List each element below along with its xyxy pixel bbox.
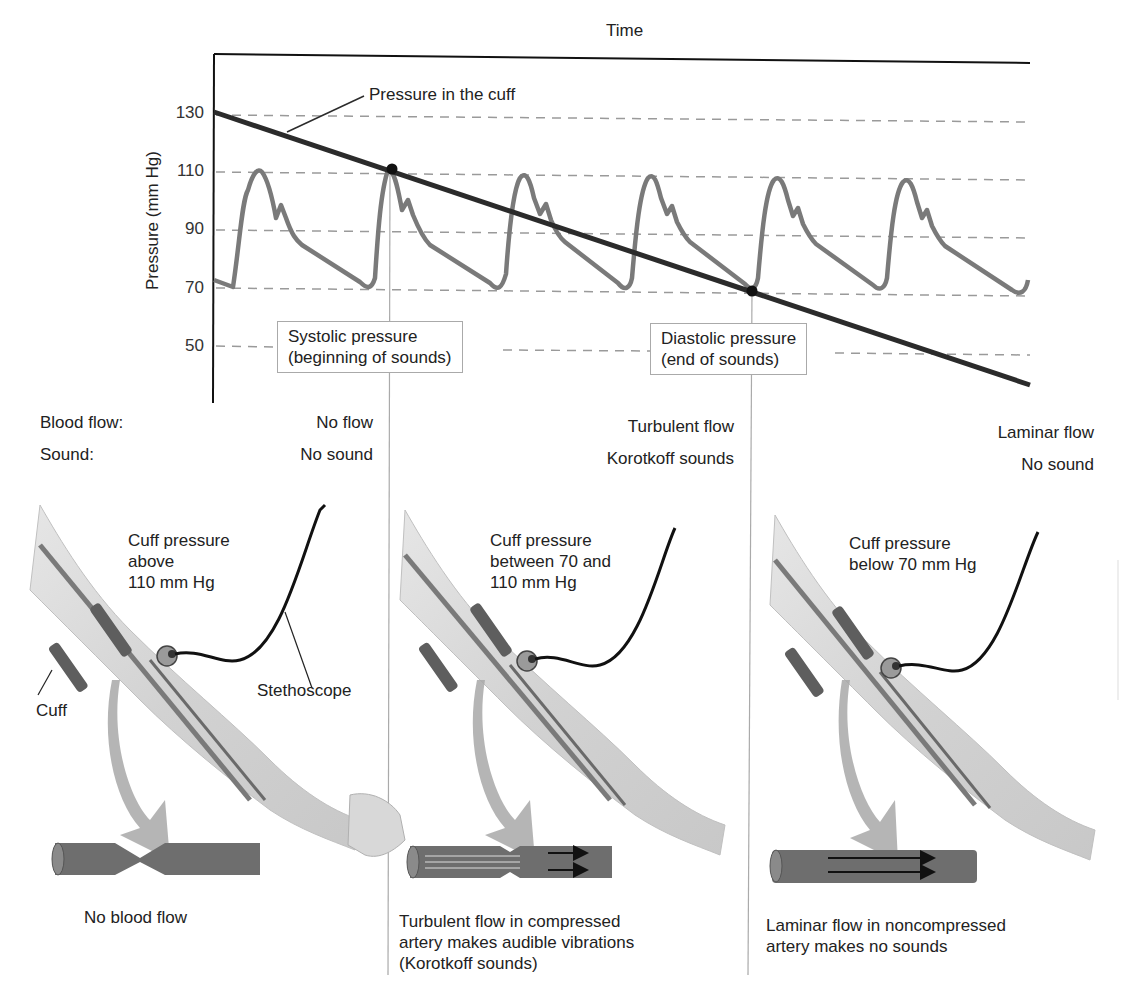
- diastolic-callout: Diastolic pressure (end of sounds): [650, 323, 807, 375]
- chart-graphics: [0, 0, 1131, 1008]
- panel-1-sound: No sound: [250, 444, 373, 465]
- diastolic-divider: [748, 290, 752, 975]
- panel-2-artery-caption-line3: (Korotkoff sounds): [399, 953, 634, 974]
- panel-2-cuff-pressure-line1: Cuff pressure: [490, 530, 611, 551]
- blood-flow-row-label: Blood flow:: [40, 412, 123, 433]
- cuff-label: Cuff: [36, 700, 67, 721]
- panel-2-artery-caption: Turbulent flow in compressed artery make…: [399, 911, 634, 974]
- panel-3-artery-caption-line2: artery makes no sounds: [766, 936, 1006, 957]
- y-tick-110: 110: [164, 161, 204, 181]
- y-axis: [213, 54, 214, 403]
- panel-3-cuff-pressure-line2: below 70 mm Hg: [849, 554, 977, 575]
- panel-2-cuff-pressure: Cuff pressure between 70 and 110 mm Hg: [490, 530, 611, 593]
- panel-1-artery-caption: No blood flow: [84, 907, 187, 928]
- panel-2-cuff-pressure-line2: between 70 and: [490, 551, 611, 572]
- sound-row-label: Sound:: [40, 444, 94, 465]
- systolic-divider: [388, 170, 390, 975]
- panel-3-artery-caption: Laminar flow in noncompressed artery mak…: [766, 915, 1006, 957]
- panel-3-artery-caption-line1: Laminar flow in noncompressed: [766, 915, 1006, 936]
- systolic-callout-line2: (beginning of sounds): [288, 347, 452, 368]
- systolic-point: [387, 164, 398, 175]
- cuff-line-label: Pressure in the cuff: [369, 84, 515, 105]
- panel-3-cuff-pressure-line1: Cuff pressure: [849, 533, 977, 554]
- systolic-callout: Systolic pressure (beginning of sounds): [277, 321, 463, 373]
- panel-1-blood-flow: No flow: [250, 412, 373, 433]
- y-axis-label: Pressure (mm Hg): [143, 151, 163, 290]
- artery-turbulent: [407, 846, 612, 878]
- stethoscope-label: Stethoscope: [257, 680, 352, 701]
- diastolic-callout-line2: (end of sounds): [661, 349, 796, 370]
- panel-1-cuff-pressure-line1: Cuff pressure: [128, 530, 230, 551]
- panel-1-cuff-pressure-line3: 110 mm Hg: [128, 572, 230, 593]
- panel-1-cuff-pressure-line2: above: [128, 551, 230, 572]
- panel-3-cuff-pressure: Cuff pressure below 70 mm Hg: [849, 533, 977, 575]
- diastolic-callout-line1: Diastolic pressure: [661, 328, 796, 349]
- cuff-label-leader: [287, 96, 364, 132]
- diastolic-point: [747, 286, 758, 297]
- panel-2-artery-caption-line2: artery makes audible vibrations: [399, 932, 634, 953]
- panel-2-cuff-pressure-line3: 110 mm Hg: [490, 572, 611, 593]
- panel-1-cuff-pressure: Cuff pressure above 110 mm Hg: [128, 530, 230, 593]
- x-axis-label: Time: [606, 20, 643, 41]
- panel-2-sound: Korotkoff sounds: [560, 448, 734, 469]
- y-tick-90: 90: [164, 219, 204, 239]
- y-tick-50: 50: [164, 336, 204, 356]
- panel-2-artery-caption-line1: Turbulent flow in compressed: [399, 911, 634, 932]
- y-tick-130: 130: [164, 103, 204, 123]
- panel-3-blood-flow: Laminar flow: [950, 422, 1094, 443]
- panel-3-sound: No sound: [950, 454, 1094, 475]
- y-tick-70: 70: [164, 278, 204, 298]
- systolic-callout-line1: Systolic pressure: [288, 326, 452, 347]
- panel-2-blood-flow: Turbulent flow: [560, 416, 734, 437]
- artery-laminar: [770, 850, 977, 883]
- top-axis: [214, 54, 1030, 63]
